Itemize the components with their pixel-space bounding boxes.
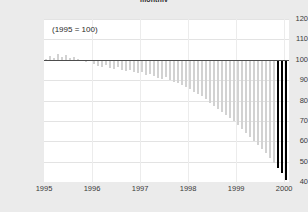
bar: [213, 60, 215, 106]
bar: [185, 60, 187, 88]
x-tick-label: 1998: [173, 185, 203, 193]
y-tick-label: 80: [268, 97, 308, 105]
x-tick-label: 1995: [29, 185, 59, 193]
chart-title: monthly: [0, 0, 308, 2]
bar: [141, 60, 143, 73]
bar: [153, 60, 155, 76]
bar: [209, 60, 211, 103]
bar: [225, 60, 227, 115]
bar: [257, 60, 259, 146]
bar: [177, 60, 179, 83]
bar: [169, 60, 171, 80]
chart-root: monthly 120110100908070605040 1995199619…: [0, 0, 308, 212]
y-tick-label: 70: [268, 117, 308, 125]
y-axis: [0, 0, 41, 212]
bar: [157, 60, 159, 78]
bar: [205, 60, 207, 100]
bar: [113, 60, 115, 69]
bar: [129, 60, 131, 70]
bar: [249, 60, 251, 137]
bar: [229, 60, 231, 118]
x-tick-label: 2000: [269, 185, 299, 193]
bar: [253, 60, 255, 142]
bar-series: [44, 19, 289, 182]
bar: [137, 60, 139, 73]
bar: [101, 60, 103, 67]
bar: [189, 60, 191, 90]
bar: [201, 60, 203, 97]
bar: [245, 60, 247, 133]
baseline-line: [44, 60, 289, 61]
bar: [145, 60, 147, 75]
bar: [217, 60, 219, 109]
bar: [237, 60, 239, 125]
y-tick-label: 50: [268, 158, 308, 166]
bar: [181, 60, 183, 85]
bar: [121, 60, 123, 70]
y-tick-label: 100: [268, 56, 308, 64]
plot-area: [44, 19, 289, 182]
bar: [165, 60, 167, 77]
bar: [149, 60, 151, 74]
chart-annotation: (1995 = 100): [52, 25, 98, 34]
bar: [261, 60, 263, 150]
bar: [265, 60, 267, 154]
y-tick-label: 120: [268, 15, 308, 23]
y-tick-label: 90: [268, 76, 308, 84]
x-tick-label: 1997: [125, 185, 155, 193]
y-tick-label: 60: [268, 137, 308, 145]
bar: [241, 60, 243, 129]
bar: [221, 60, 223, 112]
bar: [197, 60, 199, 95]
bar: [117, 60, 119, 68]
bar: [125, 60, 127, 71]
bar: [109, 60, 111, 68]
bar: [133, 60, 135, 72]
bar: [233, 60, 235, 121]
bar: [173, 60, 175, 82]
bar: [161, 60, 163, 79]
x-tick-label: 1996: [77, 185, 107, 193]
y-tick-label: 110: [268, 35, 308, 43]
bar: [193, 60, 195, 93]
x-tick-label: 1999: [221, 185, 251, 193]
